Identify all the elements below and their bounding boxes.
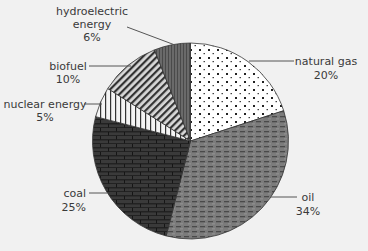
leader-line-hydro xyxy=(127,27,175,45)
label-coal-pct: 25% xyxy=(62,201,86,214)
label-coal: coal xyxy=(63,187,86,200)
pie-chart: hydroelectric energy 6% biofuel 10% nucl… xyxy=(0,0,368,251)
label-oil: oil xyxy=(302,191,315,204)
pie-slices xyxy=(93,43,289,239)
label-nuclear-pct: 5% xyxy=(36,111,53,124)
label-natural-gas: natural gas xyxy=(295,55,358,68)
label-natural-gas-pct: 20% xyxy=(314,69,338,82)
label-hydro-pct: 6% xyxy=(83,31,100,44)
label-oil-pct: 34% xyxy=(296,205,320,218)
label-hydro-line2: energy xyxy=(73,18,112,31)
label-hydro-line1: hydroelectric xyxy=(56,5,128,18)
label-nuclear: nuclear energy xyxy=(4,98,87,111)
label-biofuel-pct: 10% xyxy=(56,73,80,86)
label-biofuel: biofuel xyxy=(49,60,86,73)
